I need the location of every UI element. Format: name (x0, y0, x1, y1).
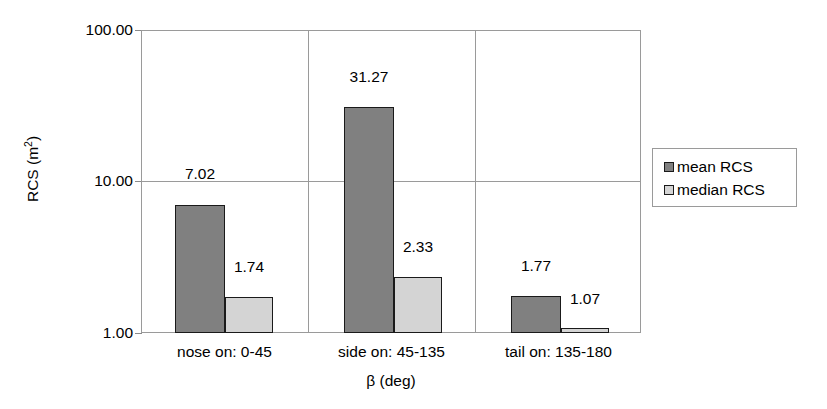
category-separator-1 (308, 31, 309, 332)
legend: mean RCS median RCS (652, 148, 797, 207)
bar-value-label-mean-nose-on: 7.02 (160, 166, 240, 182)
bar-value-label-mean-tail-on: 1.77 (496, 258, 576, 274)
y-axis-title-text: RCS (m (24, 147, 41, 202)
bar-median-nose-on[interactable] (225, 297, 273, 333)
y-axis-title-exponent: 2 (22, 141, 34, 147)
bar-value-label-median-nose-on: 1.74 (209, 259, 289, 275)
rcs-bar-chart: 100.00 10.00 1.00 RCS (m2) 7.02 1.74 31.… (0, 0, 827, 409)
x-axis-title: β (deg) (141, 372, 641, 390)
legend-label-mean-rcs: mean RCS (677, 159, 753, 175)
bar-value-label-median-side-on: 2.33 (378, 239, 458, 255)
legend-label-median-rcs: median RCS (677, 182, 765, 198)
bar-median-side-on[interactable] (394, 277, 442, 333)
bar-mean-side-on[interactable] (344, 107, 394, 333)
y-axis: 100.00 10.00 1.00 (0, 0, 133, 409)
y-axis-title: RCS (m2) (24, 89, 42, 249)
plot-area: 7.02 1.74 31.27 2.33 1.77 1.07 (141, 30, 641, 333)
x-category-label-tail-on: tail on: 135-180 (475, 344, 642, 360)
x-category-label-side-on: side on: 45-135 (308, 344, 475, 360)
legend-swatch-median-rcs-icon (664, 185, 674, 195)
legend-swatch-mean-rcs-icon (664, 162, 674, 172)
y-tick-label-1: 1.00 (13, 325, 133, 341)
y-tick-mark-1 (135, 333, 142, 334)
bar-value-label-median-tail-on: 1.07 (545, 291, 625, 307)
x-category-label-nose-on: nose on: 0-45 (141, 344, 308, 360)
y-tick-label-100: 100.00 (13, 22, 133, 38)
bar-value-label-mean-side-on: 31.27 (329, 69, 409, 85)
legend-item-mean-rcs[interactable]: mean RCS (664, 158, 753, 175)
y-axis-title-close-paren: ) (24, 136, 41, 141)
category-separator-2 (475, 31, 476, 332)
bar-median-tail-on[interactable] (561, 328, 609, 333)
legend-item-median-rcs[interactable]: median RCS (664, 181, 765, 198)
